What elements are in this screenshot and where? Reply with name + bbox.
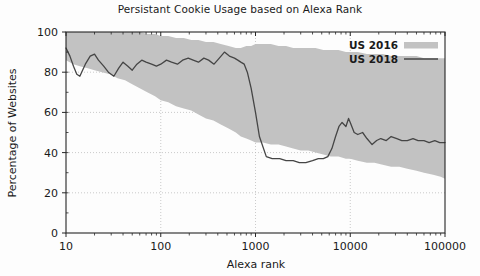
y-axis-title: Percentage of Websites	[6, 68, 19, 197]
chart-figure: Persistant Cookie Usage based on Alexa R…	[0, 0, 480, 276]
x-tick-label: 100000	[424, 240, 466, 253]
legend-label-us-2016: US 2016	[349, 39, 398, 51]
x-axis-title: Alexa rank	[227, 258, 286, 271]
y-tick-label: 80	[44, 66, 58, 79]
legend-swatch-us-2016	[404, 42, 438, 49]
y-tick-label: 100	[37, 26, 58, 39]
chart-plot-area: 02040608010010100100010000100000 US 2016…	[0, 0, 480, 276]
y-tick-label: 0	[51, 227, 58, 240]
y-tick-label: 60	[44, 106, 58, 119]
x-tick-label: 10	[59, 240, 73, 253]
y-tick-label: 20	[44, 187, 58, 200]
x-tick-label: 1000	[242, 240, 270, 253]
x-tick-label: 100	[150, 240, 171, 253]
x-tick-label: 10000	[333, 240, 368, 253]
legend-label-us-2018: US 2018	[349, 53, 398, 65]
y-tick-label: 40	[44, 147, 58, 160]
